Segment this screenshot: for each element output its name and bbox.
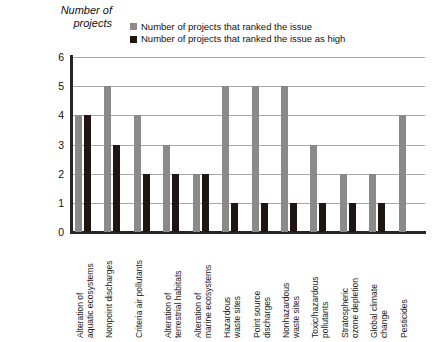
bar-group <box>281 57 310 232</box>
bar-ranked-the-issue <box>340 174 347 232</box>
legend-item-ranked-the-issue: Number of projects that ranked the issue <box>130 21 345 33</box>
bar-ranked-the-issue <box>310 145 317 233</box>
bar-group <box>399 57 428 232</box>
x-label: Alteration of aquatic ecosystems <box>76 236 95 338</box>
bar-ranked-as-high <box>84 115 91 232</box>
y-tick-label-5: 5 <box>4 81 64 91</box>
y-tick-label-0: 0 <box>4 227 64 237</box>
bar-ranked-the-issue <box>193 174 200 232</box>
legend-label-dark: Number of projects that ranked the issue… <box>141 34 345 44</box>
x-label: Global climate change <box>370 236 389 338</box>
x-label: Toxic/hazardous pollutants <box>311 236 330 338</box>
bar-ranked-as-high <box>378 203 385 232</box>
legend-label-light: Number of projects that ranked the issue <box>141 22 312 32</box>
bar-ranked-as-high <box>172 174 179 232</box>
legend-swatch-dark <box>130 36 137 43</box>
bar-group <box>134 57 163 232</box>
bar-ranked-as-high <box>319 203 326 232</box>
y-axis-tick-labels: 6543210 <box>0 57 64 232</box>
bar-group <box>340 57 369 232</box>
legend-item-ranked-as-high: Number of projects that ranked the issue… <box>130 34 345 46</box>
x-label: Alteration of marine ecosystems <box>194 236 213 338</box>
bar-ranked-the-issue <box>399 115 406 232</box>
bar-ranked-as-high <box>113 145 120 233</box>
y-axis-title: Number of projects <box>8 4 112 29</box>
bar-ranked-the-issue <box>222 86 229 232</box>
x-label: Alteration of terrestrial habitats <box>164 236 183 338</box>
bar-ranked-as-high <box>349 203 356 232</box>
y-tick-label-1: 1 <box>4 198 64 208</box>
bar-ranked-the-issue <box>134 115 141 232</box>
bar-group <box>163 57 192 232</box>
bar-ranked-the-issue <box>252 86 259 232</box>
bar-group <box>222 57 251 232</box>
x-label: Point source discharges <box>253 236 272 338</box>
bar-ranked-as-high <box>290 203 297 232</box>
bar-ranked-as-high <box>143 174 150 232</box>
bar-ranked-as-high <box>261 203 268 232</box>
bar-ranked-as-high <box>231 203 238 232</box>
bar-ranked-the-issue <box>104 86 111 232</box>
x-label: Hazardous waste sites <box>223 236 242 338</box>
bar-group <box>252 57 281 232</box>
chart-legend: Number of projects that ranked the issue… <box>130 21 345 46</box>
x-label: Pesticides <box>400 236 410 338</box>
x-label: Nonpoint discharges <box>105 236 115 338</box>
bar-ranked-the-issue <box>369 174 376 232</box>
x-label: Stratospheric ozone depletion <box>341 236 360 338</box>
x-label: Criteria air pollutants <box>135 236 145 338</box>
bar-group <box>369 57 398 232</box>
bar-ranked-the-issue <box>281 86 288 232</box>
x-axis-category-labels: Alteration of aquatic ecosystemsNonpoint… <box>72 236 425 342</box>
y-tick-label-2: 2 <box>4 169 64 179</box>
bar-group <box>310 57 339 232</box>
y-tick-label-6: 6 <box>4 52 64 62</box>
bar-ranked-the-issue <box>75 115 82 232</box>
bar-group <box>193 57 222 232</box>
bar-ranked-the-issue <box>163 145 170 233</box>
bar-series-container <box>72 57 425 232</box>
y-tick-label-3: 3 <box>4 140 64 150</box>
legend-swatch-light <box>130 23 137 30</box>
bar-group <box>75 57 104 232</box>
bar-group <box>104 57 133 232</box>
x-label: Nonhazardous waste sites <box>282 236 301 338</box>
bar-ranked-as-high <box>202 174 209 232</box>
y-tick-label-4: 4 <box>4 110 64 120</box>
